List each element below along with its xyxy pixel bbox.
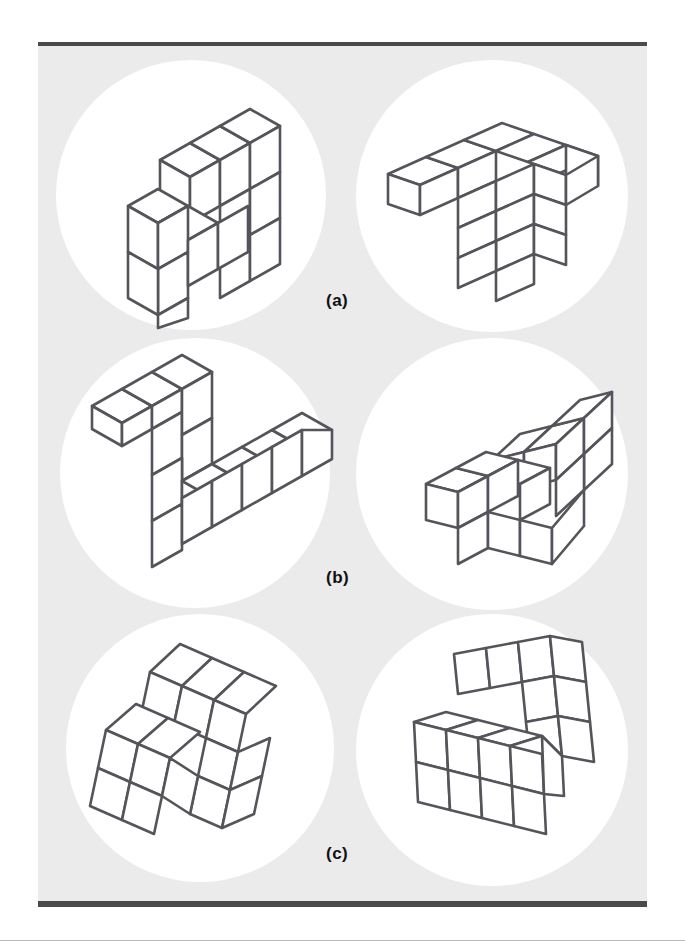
figure-circle-b-left — [60, 338, 330, 608]
figure-circle-c-right — [356, 614, 628, 886]
figure-panel: (a) — [38, 46, 647, 901]
figure-circle-a-right — [356, 60, 628, 332]
figure-circle-c-left — [66, 614, 334, 882]
page-root: (a) — [0, 0, 685, 949]
row-caption-a: (a) — [326, 291, 348, 311]
figure-circle-b-right — [356, 338, 628, 610]
footer-hairline-rule — [0, 940, 685, 941]
bottom-rule — [38, 901, 647, 907]
row-caption-b: (b) — [326, 568, 349, 588]
row-caption-c: (c) — [326, 844, 348, 864]
figure-circle-a-left — [56, 60, 326, 330]
